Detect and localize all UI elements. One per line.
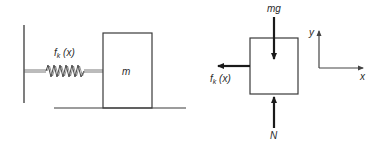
mass-label: m: [122, 66, 130, 77]
coordinate-axes: y x: [308, 27, 366, 82]
mass-spring-system: fk (x) m: [24, 25, 186, 108]
free-body-diagram: mg fk (x) N: [210, 3, 298, 141]
y-axis-label: y: [308, 27, 315, 38]
spring: [24, 65, 103, 77]
spring-force-label: fk (x): [54, 47, 75, 59]
normal-label: N: [270, 130, 278, 141]
x-axis-label: x: [359, 71, 366, 82]
weight-label: mg: [267, 3, 281, 14]
friction-label: fk (x): [210, 73, 231, 85]
diagram-canvas: fk (x) m mg fk (x) N y x: [0, 0, 381, 145]
